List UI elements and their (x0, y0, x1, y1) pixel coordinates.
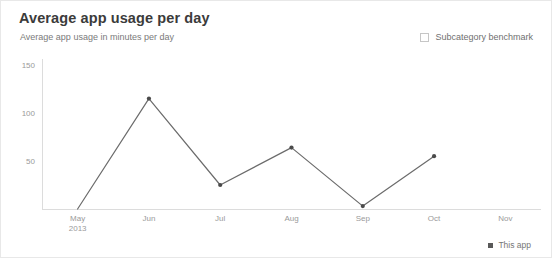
x-axis-tick-label: Aug (284, 214, 298, 223)
chart-card: Average app usage per day Average app us… (0, 0, 552, 258)
y-axis-tick-label: 50 (26, 157, 35, 166)
y-axis-tick-label: 100 (22, 109, 36, 118)
series-line (78, 99, 435, 209)
series-data-point[interactable] (218, 183, 222, 187)
series-data-point[interactable] (361, 204, 365, 208)
legend-series-label: This app (498, 240, 531, 250)
x-axis-tick-label: Sep (356, 214, 371, 223)
x-axis-tick-label: Jul (215, 214, 225, 223)
chart-legend: This app (488, 240, 531, 250)
series-data-point[interactable] (432, 154, 436, 158)
x-axis-tick-sublabel: 2013 (69, 224, 87, 233)
series-data-point[interactable] (289, 145, 293, 149)
y-axis-tick-label: 150 (22, 61, 36, 70)
x-axis-tick-label: Jun (142, 214, 155, 223)
x-axis-tick-label: Nov (498, 214, 512, 223)
x-axis-tick-label: May (70, 214, 85, 223)
series-data-point[interactable] (147, 97, 151, 101)
x-axis-tick-label: Oct (428, 214, 441, 223)
legend-marker-icon (488, 243, 493, 248)
line-chart-plot: 50100150May2013JunJulAugSepOctNov (1, 1, 552, 258)
